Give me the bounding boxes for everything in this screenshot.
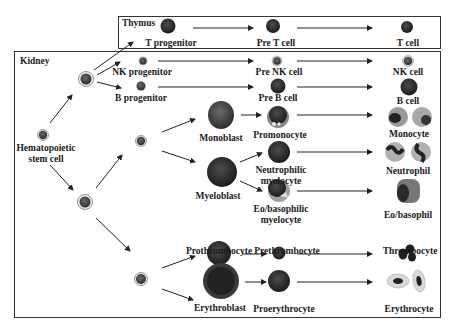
lymphoid-progenitor-cell-icon (79, 72, 94, 87)
pre-nk-cell-icon (272, 56, 282, 66)
neutrophil-label: Neutrophil (386, 166, 430, 176)
pre-t-cell-icon (266, 19, 280, 33)
erythroblast-cell-icon (203, 263, 239, 299)
t-progenitor-label: T progenitor (145, 38, 197, 48)
erythrocyte-cell-icon (387, 269, 427, 293)
eo-basophilic-myelocyte-label-line1: Eo/basophilic (254, 204, 309, 214)
thrombocyte-label: Thrombocyte (383, 246, 438, 256)
pre-b-cell-label: Pre B cell (259, 93, 298, 103)
promonocyte-label: Promonocyte (253, 130, 307, 140)
nk-cell-label: NK cell (393, 67, 423, 77)
hematopoiesis-diagram: Thymus Kidney (0, 0, 456, 328)
b-progenitor-label: B progenitor (115, 93, 167, 103)
granulocyte-monocyte-progenitor-cell-icon (136, 136, 147, 147)
erythrocyte-label: Erythrocyte (385, 304, 434, 314)
pre-nk-cell-label: Pre NK cell (256, 67, 303, 77)
neutrophilic-myelocyte-cell-icon (268, 141, 290, 163)
hsc-label-line2: stem cell (28, 154, 63, 164)
neutrophilic-myelocyte-label-line1: Neutrophilic (255, 165, 306, 175)
neutrophilic-myelocyte-label-line2: myelocyte (261, 176, 302, 186)
neutrophil-cell-icon (385, 142, 431, 162)
arrows-and-cells (0, 0, 456, 328)
promonocyte-cell-icon (267, 106, 289, 128)
hsc-cell-icon (38, 130, 49, 141)
t-cell-label: T cell (397, 38, 419, 48)
nk-progenitor-cell-icon (139, 57, 148, 66)
hsc-label-line1: Hematopoietic (16, 143, 75, 153)
monoblast-label: Monoblast (199, 133, 242, 143)
eo-basophilic-myelocyte-label-line2: myelocyte (261, 215, 302, 225)
b-cell-icon (401, 79, 418, 96)
nk-progenitor-label: NK progenitor (112, 67, 172, 77)
monoblast-cell-icon (208, 101, 234, 129)
megakaryocyte-erythroid-progenitor-cell-icon (135, 273, 148, 286)
common-myeloid-progenitor-cell-icon (78, 195, 93, 210)
eo-basophil-label: Eo/basophil (384, 210, 432, 220)
monocyte-cell-icon (388, 107, 432, 127)
proerythrocyte-cell-icon (268, 270, 290, 292)
monocyte-label: Monocyte (389, 129, 429, 139)
myeloblast-label: Myeloblast (196, 191, 241, 201)
eo-basophil-cell-icon (397, 179, 420, 203)
pre-b-cell-icon (271, 79, 286, 94)
pre-t-cell-label: Pre T cell (257, 38, 296, 48)
prethrombocyte-label: Prethrombocyte (254, 246, 320, 256)
t-cell-icon (401, 21, 413, 33)
prothrombocyte-label: Prothrombocyte (186, 246, 252, 256)
nk-cell-icon (403, 56, 414, 67)
b-cell-label: B cell (397, 96, 419, 106)
proerythrocyte-label: Proerythrocyte (253, 304, 314, 314)
erythroblast-label: Erythroblast (194, 303, 246, 313)
myeloblast-cell-icon (207, 157, 237, 187)
b-progenitor-cell-icon (137, 82, 146, 91)
t-progenitor-cell-icon (161, 19, 176, 34)
